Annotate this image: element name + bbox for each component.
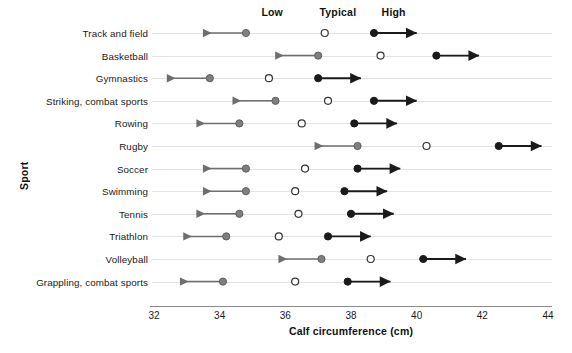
high-marker (495, 142, 502, 149)
typical-marker (265, 75, 272, 82)
typical-marker (298, 120, 305, 127)
low-marker (318, 255, 325, 262)
high-marker (341, 188, 348, 195)
low-marker (236, 210, 243, 217)
typical-marker (423, 143, 430, 150)
low-marker (206, 75, 213, 82)
high-marker (344, 278, 351, 285)
low-marker (242, 29, 249, 36)
chart-markers-layer (0, 0, 572, 353)
high-marker (370, 29, 377, 36)
typical-marker (321, 30, 328, 37)
typical-marker (302, 165, 309, 172)
low-marker (354, 142, 361, 149)
typical-marker (292, 188, 299, 195)
low-marker (272, 97, 279, 104)
low-marker (219, 278, 226, 285)
high-marker (433, 52, 440, 59)
high-marker (351, 120, 358, 127)
typical-marker (325, 97, 332, 104)
high-marker (347, 210, 354, 217)
high-marker (324, 233, 331, 240)
low-marker (223, 233, 230, 240)
low-marker (242, 188, 249, 195)
typical-marker (367, 256, 374, 263)
low-marker (242, 165, 249, 172)
typical-marker (292, 278, 299, 285)
low-marker (315, 52, 322, 59)
low-marker (236, 120, 243, 127)
high-marker (420, 255, 427, 262)
typical-marker (377, 52, 384, 59)
high-marker (370, 97, 377, 104)
calf-circumference-chart: LowTypicalHigh Track and fieldBasketball… (0, 0, 572, 353)
typical-marker (295, 210, 302, 217)
high-marker (354, 165, 361, 172)
typical-marker (275, 233, 282, 240)
high-marker (315, 75, 322, 82)
